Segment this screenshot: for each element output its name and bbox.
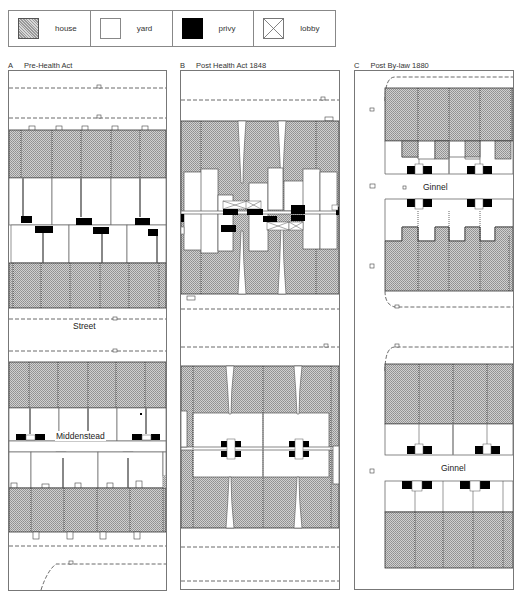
panel-a-pre-health-act: Street Middenstead <box>8 70 167 591</box>
panel-letter: B <box>180 61 185 70</box>
legend-item-house: house <box>9 11 91 46</box>
panel-b-post-health-act-1848 <box>180 70 340 590</box>
panel-c-plan <box>355 71 513 589</box>
legend-label: lobby <box>300 24 319 33</box>
yard-swatch-icon <box>100 18 121 39</box>
panel-a-title: APre-Health Act <box>8 61 72 70</box>
privy-swatch-icon <box>182 18 203 39</box>
street-label: Street <box>73 321 96 331</box>
legend: house yard privy lobby <box>8 10 336 47</box>
legend-label: house <box>55 24 77 33</box>
panel-title-text: Post Health Act 1848 <box>196 61 266 70</box>
legend-item-lobby: lobby <box>254 11 335 46</box>
lobby-swatch-icon <box>263 18 284 39</box>
panel-b-plan <box>181 71 339 589</box>
legend-label: yard <box>137 24 153 33</box>
panel-c-post-by-law-1880: Ginnel Ginnel <box>354 70 514 590</box>
ginnel-lower-label: Ginnel <box>441 463 466 473</box>
legend-item-privy: privy <box>173 11 255 46</box>
ginnel-upper-label: Ginnel <box>423 182 448 192</box>
panel-letter: A <box>8 61 13 70</box>
middenstead-label: Middenstead <box>55 431 106 441</box>
legend-label: privy <box>219 24 236 33</box>
legend-item-yard: yard <box>91 11 173 46</box>
panel-title-text: Pre-Health Act <box>24 61 72 70</box>
panel-letter: C <box>354 61 359 70</box>
panel-b-title: BPost Health Act 1848 <box>180 61 266 70</box>
house-swatch-icon <box>18 18 39 39</box>
panel-c-title: CPost By-law 1880 <box>354 61 429 70</box>
panel-title-text: Post By-law 1880 <box>370 61 428 70</box>
